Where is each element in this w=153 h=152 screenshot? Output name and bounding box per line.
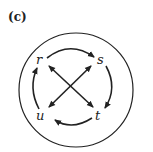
arc-s-t (105, 66, 112, 108)
node-r: r (36, 52, 42, 67)
node-u: u (36, 108, 44, 123)
cycle-diagram (0, 0, 153, 152)
node-s: s (97, 52, 104, 67)
outer-circle (19, 33, 133, 147)
arc-u-r (33, 68, 39, 109)
arc-t-u (55, 118, 92, 125)
node-t: t (95, 108, 100, 123)
arc-r-s (47, 49, 94, 58)
